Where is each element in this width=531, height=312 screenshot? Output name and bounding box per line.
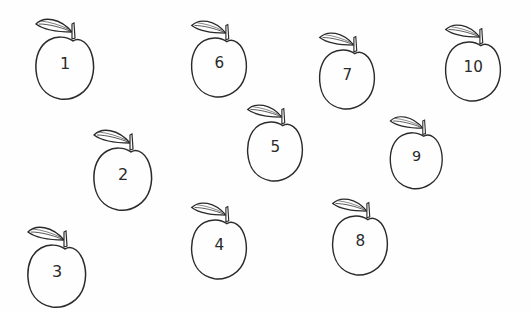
apple-10: 10 (440, 20, 503, 104)
apple-number: 8 (329, 232, 392, 250)
apple-number: 7 (316, 66, 379, 84)
apple-number: 6 (188, 54, 251, 72)
apple-number: 3 (24, 262, 90, 281)
apple-1: 1 (30, 14, 96, 102)
apple-5: 5 (242, 100, 305, 184)
apple-number: 5 (244, 138, 307, 156)
apple-number: 2 (90, 165, 156, 184)
apple-4: 4 (186, 198, 249, 282)
apple-number: 1 (32, 54, 98, 73)
apple-counting-worksheet: 1 2 3 4 5 6 7 8 9 10 (0, 0, 531, 312)
apple-2: 2 (88, 125, 154, 213)
apple-9: 9 (385, 112, 444, 191)
apple-number: 9 (387, 148, 446, 164)
apple-7: 7 (314, 28, 377, 112)
apple-3: 3 (22, 222, 88, 310)
apple-number: 4 (188, 236, 251, 254)
apple-8: 8 (327, 194, 390, 278)
apple-number: 10 (442, 58, 505, 76)
apple-6: 6 (186, 16, 249, 100)
